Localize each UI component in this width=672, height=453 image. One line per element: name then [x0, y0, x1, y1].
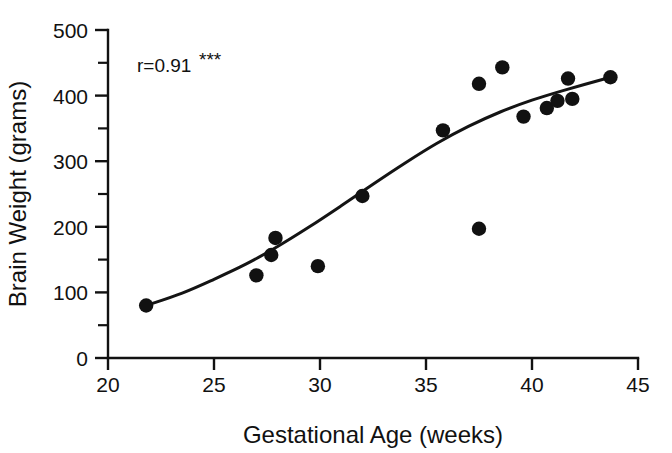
x-tick-label-35: 35 — [414, 373, 437, 396]
data-point — [139, 298, 153, 312]
data-point — [436, 123, 450, 137]
x-tick-label-20: 20 — [96, 373, 119, 396]
y-tick-label-200: 200 — [53, 216, 88, 239]
y-tick-label-300: 300 — [53, 150, 88, 173]
correlation-value: r=0.91 — [137, 55, 191, 76]
y-tick-label-0: 0 — [76, 347, 88, 370]
data-point — [249, 268, 263, 282]
data-point — [550, 94, 564, 108]
x-tick-label-30: 30 — [308, 373, 331, 396]
data-point — [472, 77, 486, 91]
y-axis-tick-labels: 0 100 200 300 400 500 — [53, 19, 88, 370]
chart-canvas: Brain Weight (grams) Gestational Age (we… — [0, 0, 672, 453]
data-point — [565, 92, 579, 106]
y-tick-label-100: 100 — [53, 281, 88, 304]
y-tick-label-400: 400 — [53, 85, 88, 108]
scatter-plot-figure: Brain Weight (grams) Gestational Age (we… — [0, 0, 672, 453]
data-point — [495, 60, 509, 74]
data-point — [264, 248, 278, 262]
x-axis-tick-labels: 20 25 30 35 40 45 — [96, 373, 649, 396]
data-point — [472, 222, 486, 236]
significance-stars: *** — [199, 49, 222, 70]
data-point — [561, 71, 575, 85]
data-point — [355, 189, 369, 203]
y-tick-label-500: 500 — [53, 19, 88, 42]
x-tick-label-45: 45 — [626, 373, 649, 396]
axis-spines — [108, 30, 638, 358]
data-point — [268, 231, 282, 245]
x-axis-major-ticks — [108, 358, 638, 370]
data-point — [603, 70, 617, 84]
x-axis-title: Gestational Age (weeks) — [243, 421, 503, 448]
data-point-group — [139, 60, 618, 313]
y-axis-title: Brain Weight (grams) — [4, 81, 31, 307]
x-tick-label-40: 40 — [520, 373, 543, 396]
x-tick-label-25: 25 — [202, 373, 225, 396]
y-axis-minor-ticks — [98, 63, 108, 325]
correlation-annotation: r=0.91 *** — [137, 49, 222, 76]
data-point — [516, 109, 530, 123]
data-point — [311, 259, 325, 273]
